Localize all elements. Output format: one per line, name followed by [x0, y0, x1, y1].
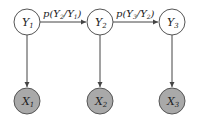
observed-node-x2: X2	[87, 88, 113, 114]
hmm-diagram: p(Y2/Y1) p(Y3/Y2) Y1 Y2 Y3 X1 X2 X3	[0, 0, 197, 119]
hidden-node-y3: Y3	[159, 9, 185, 35]
hidden-node-y1: Y1	[14, 9, 40, 35]
transition-label-y1-y2: p(Y2/Y1)	[43, 8, 82, 20]
observed-node-x1: X1	[14, 88, 40, 114]
transition-label-y2-y3: p(Y3/Y2)	[116, 8, 155, 20]
observed-node-x3: X3	[159, 88, 185, 114]
hidden-node-y2: Y2	[87, 9, 113, 35]
